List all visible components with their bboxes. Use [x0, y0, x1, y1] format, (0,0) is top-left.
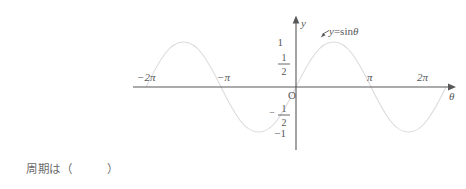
period-question-line: 周期は（ ） — [18, 146, 118, 176]
period-question-text: 周期は（ ） — [26, 162, 118, 176]
x-tick-label-2pi: 2π — [417, 71, 429, 83]
y-tick-label-1: 1 — [278, 36, 284, 48]
svg-text:1: 1 — [282, 52, 287, 63]
y-tick-label-minus-1: −1 — [274, 127, 286, 139]
x-tick-label-minus-pi: −π — [217, 71, 230, 83]
svg-text:2: 2 — [282, 66, 287, 77]
x-tick-label-minus-2pi: −2π — [137, 71, 156, 83]
y-tick-label-half: 1 2 — [278, 52, 290, 77]
y-tick-label-minus-half: − 1 2 — [269, 103, 290, 128]
curve-label-pointer-icon — [321, 31, 330, 38]
svg-text:−: − — [269, 107, 275, 118]
curve-label: y=sinθ — [328, 25, 359, 37]
x-tick-label-pi: π — [367, 71, 373, 83]
origin-label: O — [288, 89, 296, 101]
y-axis-label: y — [300, 17, 306, 29]
x-axis-label: θ — [449, 90, 455, 102]
svg-text:1: 1 — [282, 103, 287, 114]
